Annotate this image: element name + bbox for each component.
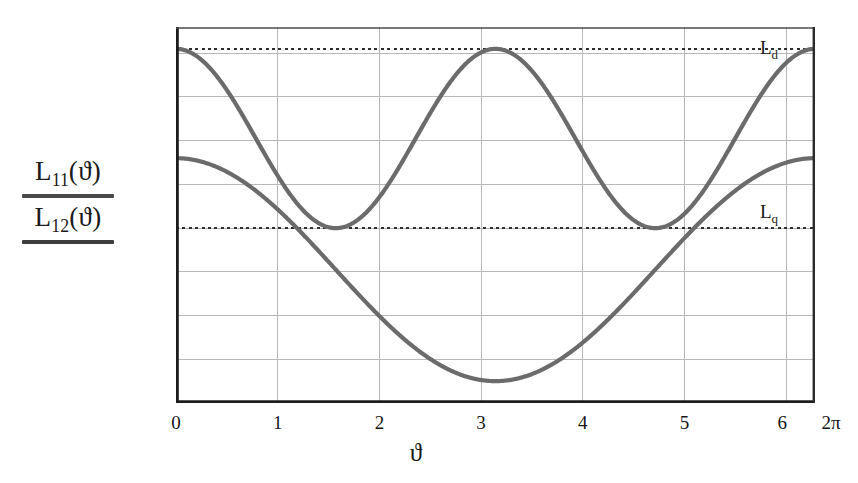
x-tick-label: 5: [670, 413, 700, 432]
x-tick-label: 4: [568, 413, 598, 432]
x-axis-label: ϑ: [0, 440, 858, 465]
x-tick-label: 6: [767, 413, 797, 432]
x-axis-label-text: ϑ: [410, 439, 422, 466]
x-tick-label: 2: [364, 413, 394, 432]
x-axis-tick-labels: 01234562π: [0, 0, 858, 483]
x-tick-label: 3: [466, 413, 496, 432]
x-tick-label: 1: [263, 413, 293, 432]
chart-figure: L11(ϑ) L12(ϑ) 0.010.0080.0060.0040.0020−…: [0, 0, 858, 483]
x-tick-label: 2π: [811, 413, 851, 432]
x-tick-label: 0: [161, 413, 191, 432]
